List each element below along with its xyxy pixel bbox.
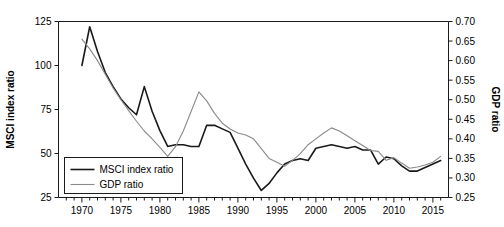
- y2-tick-label: 0.35: [456, 153, 476, 164]
- y-tick-label: 75: [40, 104, 52, 115]
- x-tick-label: 2010: [383, 205, 406, 216]
- legend-label-1: GDP ratio: [100, 179, 144, 190]
- y2-tick-label: 0.30: [456, 172, 476, 183]
- x-tick-label: 1985: [188, 205, 211, 216]
- x-tick-label: 1970: [71, 205, 94, 216]
- chart-figure: 2550751001250.250.300.350.400.450.500.55…: [0, 0, 504, 227]
- series-line-gdp-ratio: [82, 39, 441, 168]
- y-tick-label: 25: [40, 192, 52, 203]
- y-tick-label: 125: [35, 16, 52, 27]
- x-tick-label: 1975: [110, 205, 133, 216]
- y2-axis-title: GDP ratio: [490, 87, 501, 133]
- y2-tick-label: 0.55: [456, 75, 476, 86]
- y-axis-title: MSCI index ratio: [5, 70, 16, 148]
- x-tick-label: 1995: [266, 205, 289, 216]
- legend-label-0: MSCI index ratio: [100, 164, 174, 175]
- y-tick-label: 50: [40, 148, 52, 159]
- y2-tick-label: 0.40: [456, 133, 476, 144]
- y2-tick-label: 0.25: [456, 192, 476, 203]
- y-tick-label: 100: [35, 60, 52, 71]
- y2-tick-label: 0.65: [456, 36, 476, 47]
- x-tick-label: 2005: [344, 205, 367, 216]
- y2-tick-label: 0.45: [456, 114, 476, 125]
- x-tick-label: 1980: [149, 205, 172, 216]
- x-tick-label: 1990: [227, 205, 250, 216]
- y2-tick-label: 0.50: [456, 94, 476, 105]
- chart-canvas: 2550751001250.250.300.350.400.450.500.55…: [0, 0, 504, 227]
- y2-tick-label: 0.70: [456, 16, 476, 27]
- x-tick-label: 2000: [305, 205, 328, 216]
- y2-tick-label: 0.60: [456, 55, 476, 66]
- x-tick-label: 2015: [422, 205, 445, 216]
